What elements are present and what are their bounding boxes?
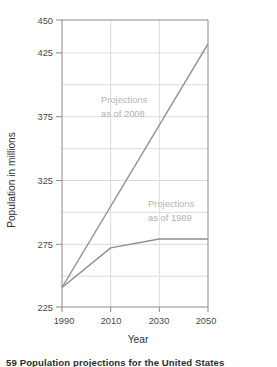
x-tick-label-2030: 2030	[149, 316, 170, 326]
annotation-projections-2008-line1: Projections	[101, 94, 148, 105]
x-tick-label-2010: 2010	[101, 316, 122, 326]
y-axis-title: Population in millions	[6, 132, 17, 228]
annotation-projections-1989-line2: as of 1989	[148, 212, 192, 223]
y-tick-label-450: 450	[37, 16, 53, 26]
x-tick-label-1990: 1990	[54, 316, 75, 326]
annotation-projections-1989-line1: Projections	[148, 198, 195, 209]
figure-caption: 59 Population projections for the United…	[6, 357, 224, 367]
y-tick-label-225: 225	[37, 303, 53, 313]
x-axis-title: Year	[128, 334, 149, 345]
annotation-projections-2008-line2: as of 2008	[101, 108, 145, 119]
y-tick-label-425: 425	[37, 48, 53, 58]
y-tick-label-375: 375	[37, 112, 53, 122]
y-axis-tick-marks	[56, 20, 62, 307]
x-axis-tick-marks	[62, 307, 208, 312]
y-tick-label-325: 325	[37, 176, 53, 186]
figure-container: 450 425 375 325 275 225 1990 2010 2030 2…	[0, 0, 277, 367]
plot-background	[62, 20, 208, 307]
figure-caption-band: 59 Population projections for the United…	[0, 357, 277, 367]
y-tick-label-275: 275	[37, 240, 53, 250]
x-tick-label-2050: 2050	[196, 316, 217, 326]
population-projections-line-chart: 450 425 375 325 275 225 1990 2010 2030 2…	[0, 0, 277, 367]
